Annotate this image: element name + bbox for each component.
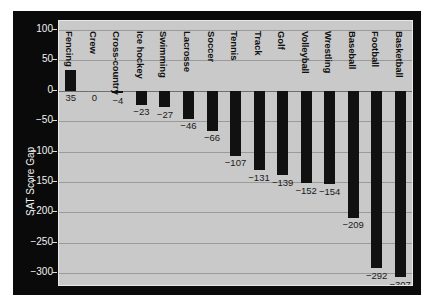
chart-figure: SAT Score Gap Fencing35Crew0Cross-countr… xyxy=(13,11,421,295)
value-label: −4 xyxy=(103,95,133,106)
bar xyxy=(136,91,147,105)
y-axis-tick-label: 0 xyxy=(0,85,53,95)
category-label: Cross-country xyxy=(111,31,122,95)
y-axis-tick-label: 100 xyxy=(0,24,53,34)
y-axis-tick-label: −300 xyxy=(0,267,53,277)
bar xyxy=(348,91,359,218)
category-label: Crew xyxy=(88,31,99,54)
category-label: Track xyxy=(253,31,264,55)
category-label: Wrestling xyxy=(323,31,334,73)
category-label: Baseball xyxy=(347,31,358,69)
bar xyxy=(159,91,170,107)
y-axis-tick-mark xyxy=(52,59,57,60)
value-label: −107 xyxy=(221,157,251,168)
category-label: Volleyball xyxy=(300,31,311,74)
y-axis-tick-mark xyxy=(52,211,57,212)
value-label: −66 xyxy=(197,132,227,143)
category-label: Soccer xyxy=(206,31,217,62)
plot-area: Fencing35Crew0Cross-country−4Ice hockey−… xyxy=(58,20,413,286)
bar xyxy=(207,91,218,131)
gridline xyxy=(59,182,412,183)
y-axis-tick-mark xyxy=(52,272,57,273)
value-label: −307 xyxy=(385,279,413,286)
y-axis-tick-label: −200 xyxy=(0,206,53,216)
category-label: Swimming xyxy=(158,31,169,78)
bar xyxy=(65,70,76,91)
value-label: −46 xyxy=(173,120,203,131)
y-axis-tick-mark xyxy=(52,120,57,121)
category-label: Football xyxy=(370,31,381,67)
bar xyxy=(183,91,194,119)
y-axis-tick-label: 50 xyxy=(0,54,53,64)
bar xyxy=(254,91,265,171)
value-label: −154 xyxy=(315,186,345,197)
y-axis-tick-mark xyxy=(52,29,57,30)
y-axis-tick-label: −250 xyxy=(0,237,53,247)
y-axis-tick-mark xyxy=(52,181,57,182)
gridline xyxy=(59,243,412,244)
category-label: Golf xyxy=(276,31,287,50)
y-axis-tick-mark xyxy=(52,242,57,243)
category-label: Ice hockey xyxy=(135,31,146,79)
value-label: −209 xyxy=(338,219,368,230)
y-axis-tick-label: −150 xyxy=(0,176,53,186)
category-label: Basketball xyxy=(394,31,405,78)
y-axis-tick-mark xyxy=(52,151,57,152)
bar xyxy=(371,91,382,268)
y-axis-tick-label: −50 xyxy=(0,115,53,125)
bar xyxy=(301,91,312,183)
category-label: Tennis xyxy=(229,31,240,60)
bar xyxy=(395,91,406,277)
bar xyxy=(277,91,288,175)
bar xyxy=(324,91,335,185)
category-label: Lacrosse xyxy=(182,31,193,72)
gridline xyxy=(59,273,412,274)
value-label: −27 xyxy=(150,109,180,120)
category-label: Fencing xyxy=(64,31,75,67)
y-axis-tick-label: −100 xyxy=(0,146,53,156)
y-axis-tick-mark xyxy=(52,90,57,91)
bar xyxy=(230,91,241,156)
gridline xyxy=(59,212,412,213)
